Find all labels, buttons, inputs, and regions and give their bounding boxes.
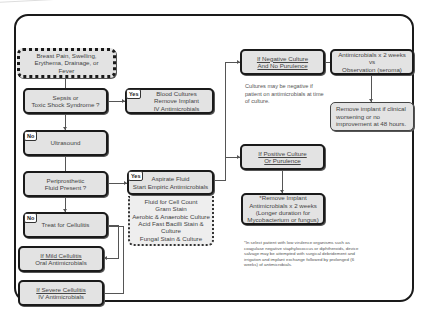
- negative-action-line2: vs: [369, 58, 375, 65]
- periprosthetic-question-box: Periprosthetic Fluid Present ?: [23, 171, 108, 197]
- sepsis-yes-line2: Remove Implant: [154, 97, 199, 104]
- ultrasound-box: No Ultrasound: [23, 130, 108, 156]
- connector: [118, 225, 119, 259]
- connector: [104, 293, 124, 294]
- negative-action-line3: Observation (seroma): [342, 66, 402, 73]
- sepsis-yes-box: Yes Blood Cultures Remove Implant IV Ant…: [125, 88, 214, 114]
- connector: [65, 77, 66, 88]
- sepsis-question-box: Sepsis or Toxic Shock Syndrome ?: [23, 88, 108, 114]
- positive-action-box: *Remove Implant Antimicrobials x 2 weeks…: [241, 193, 325, 225]
- fluid-tests-box: Fluid for Cell Count Gram Stain Aerobic …: [128, 196, 214, 246]
- fluid-test-item: Gram Stain: [155, 205, 186, 212]
- yes-tag: Yes: [128, 171, 143, 181]
- aspirate-line2: Start Empiric Antimicrobials: [133, 183, 208, 190]
- positive-line2: Or Purulence: [264, 157, 300, 164]
- cellulitis-text: Treat for Cellulitis: [42, 221, 90, 228]
- connector: [123, 226, 124, 294]
- negative-culture-box: If Negative Culture And No Purulence: [240, 49, 325, 75]
- mild-title: If Mild Cellulitis: [40, 252, 81, 259]
- positive-action-line1: *Remove Implant: [259, 194, 306, 201]
- periprosthetic-line1: Periprosthetic: [47, 177, 85, 184]
- negative-action-line1: Antimicrobials x 2 weeks: [338, 51, 406, 58]
- severe-treatment: IV Antimicrobials: [38, 293, 84, 300]
- positive-action-line2: Antimicrobials x 2 weeks: [249, 202, 317, 209]
- cellulitis-box: No Treat for Cellulitis: [23, 212, 108, 238]
- negative-line1: If Negative Culture: [257, 55, 308, 62]
- aspirate-fluid-box: Yes Aspirate Fluid Start Empiric Antimic…: [127, 170, 214, 195]
- fluid-test-item: Fluid for Cell Count: [145, 198, 198, 205]
- start-text: Breast Pain, Swelling, Erythema, Drainag…: [20, 52, 113, 74]
- negative-culture-note: Cultures may be negative if patient on a…: [245, 83, 325, 106]
- start-box: Breast Pain, Swelling, Erythema, Drainag…: [17, 48, 116, 78]
- sepsis-yes-line3: IV Antimicrobials: [154, 105, 200, 112]
- sepsis-yes-line1: Blood Cultures: [156, 90, 197, 97]
- periprosthetic-line2: Fluid Present ?: [45, 184, 87, 191]
- mild-cellulitis-box: If Mild Cellulitis Oral Antimicrobials: [18, 246, 104, 272]
- positive-action-line3: (Longer duration for: [256, 209, 310, 216]
- fluid-test-item: Acid Fast Bacilli Stain & Culture: [130, 220, 212, 235]
- aspirate-line1: Aspirate Fluid: [152, 175, 190, 182]
- connector: [108, 226, 123, 227]
- positive-action-line4: Mycobacterium or fungus): [247, 216, 319, 223]
- sepsis-line2: Toxic Shock Syndrome ?: [31, 101, 99, 108]
- connector: [65, 156, 66, 171]
- sepsis-line1: Sepsis or: [53, 94, 79, 101]
- connector: [371, 75, 372, 102]
- severe-cellulitis-box: If Severe Cellulitis IV Antimicrobials: [18, 280, 104, 306]
- severe-title: If Severe Cellulitis: [36, 286, 86, 293]
- negative-followup-text: Remove implant if clinical worsening or …: [336, 105, 413, 127]
- positive-line1: If Positive Culture: [258, 150, 307, 157]
- negative-line2: And No Purulence: [257, 62, 307, 69]
- no-tag: No: [24, 131, 37, 141]
- fluid-test-item: Fungal Stain & Culture: [140, 235, 202, 242]
- connector: [225, 62, 226, 181]
- arrow-left-icon: [104, 256, 107, 260]
- negative-followup-box: Remove implant if clinical worsening or …: [330, 102, 414, 131]
- negative-action-box: Antimicrobials x 2 weeks vs Observation …: [330, 49, 414, 75]
- no-tag: No: [24, 213, 37, 223]
- connector: [214, 180, 225, 181]
- ultrasound-text: Ultrasound: [51, 139, 81, 146]
- page-curl: [0, 0, 70, 9]
- fluid-test-item: Aerobic & Anaerobic Culture: [132, 213, 210, 220]
- footnote: *In select patient with low virulence or…: [244, 240, 366, 268]
- positive-culture-box: If Positive Culture Or Purulence: [240, 144, 325, 170]
- yes-tag: Yes: [126, 89, 141, 99]
- mild-treatment: Oral Antimicrobials: [35, 259, 87, 266]
